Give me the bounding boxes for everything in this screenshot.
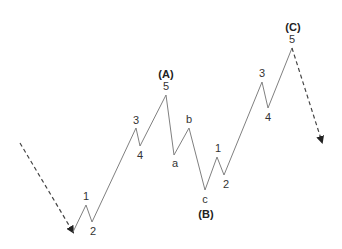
wave-label-wc: c	[202, 193, 208, 205]
wave-label-w1-a: 1	[83, 190, 89, 202]
degree-labels: (A)(B)(C)	[158, 21, 301, 220]
wave-labels: 12345abc12345	[83, 33, 295, 237]
degree-label-C: (C)	[285, 21, 301, 33]
wave-label-w4-a: 4	[137, 149, 143, 161]
wave-label-w4-c: 4	[265, 111, 271, 123]
wave-label-w3-c: 3	[259, 67, 265, 79]
wave-label-w2-a: 2	[90, 225, 96, 237]
wave-label-w3-a: 3	[133, 114, 139, 126]
wave-label-w5-a: 5	[163, 80, 169, 92]
wave-label-wa: a	[172, 157, 179, 169]
wave-label-w5-c: 5	[289, 33, 295, 45]
elliott-wave-diagram: 12345abc12345 (A)(B)(C)	[0, 0, 342, 249]
dashed-lead-out-arrow	[292, 48, 322, 142]
degree-label-A: (A)	[158, 68, 174, 80]
dashed-lead-in-arrow	[20, 143, 73, 232]
degree-label-B: (B)	[198, 208, 214, 220]
wave-label-w1-c: 1	[215, 142, 221, 154]
wave-label-wb: b	[186, 113, 192, 125]
wave-label-w2-c: 2	[223, 178, 229, 190]
